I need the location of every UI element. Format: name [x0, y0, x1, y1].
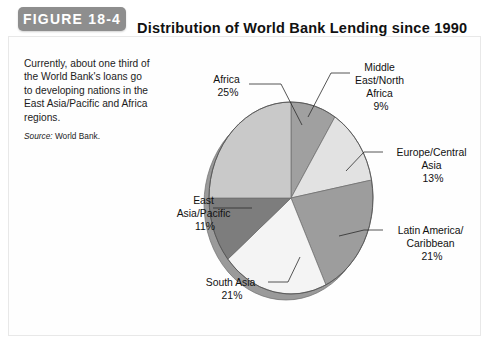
- pie-chart: Africa 25% Middle East/North Africa 9% E…: [0, 0, 493, 347]
- label-europe-central-asia: Europe/Central Asia 13%: [397, 147, 470, 184]
- pie-slices: [209, 102, 373, 294]
- label-africa: Africa 25%: [213, 74, 242, 98]
- label-middle-east-north-africa: Middle East/North Africa 9%: [355, 62, 407, 112]
- label-latin-america-caribbean: Latin America/ Caribbean 21%: [398, 225, 467, 262]
- figure-page: FIGURE 18-4 Distribution of World Bank L…: [0, 0, 493, 347]
- pie-slice-africa: [209, 102, 291, 198]
